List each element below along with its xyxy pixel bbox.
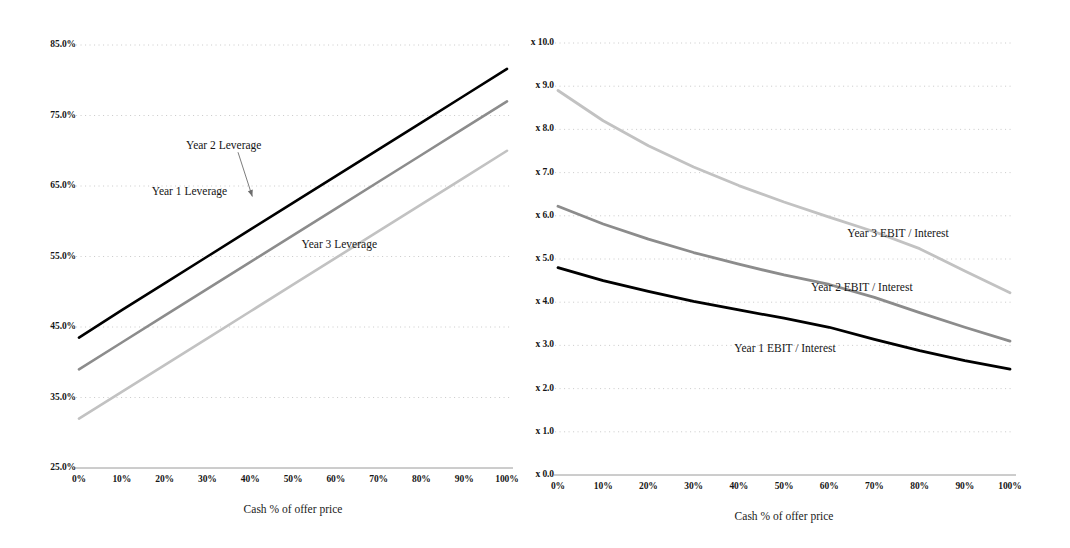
- figure-canvas: 85.0%75.0%65.0%55.0%45.0%35.0%25.0%0%10%…: [0, 0, 1070, 548]
- leverage-x-tick-label: 80%: [412, 474, 431, 484]
- leverage-y-tick-label: 75.0%: [0, 110, 76, 120]
- coverage-y-tick-label: x 10.0: [500, 37, 554, 47]
- leverage-series-annotation: Year 2 Leverage: [186, 139, 261, 151]
- coverage-x-tick-label: 0%: [551, 481, 565, 491]
- coverage-plot-area: [500, 0, 1070, 548]
- leverage-x-tick-label: 10%: [112, 474, 131, 484]
- coverage-series-annotation: Year 1 EBIT / Interest: [734, 342, 835, 354]
- coverage-y-tick-label: x 6.0: [500, 210, 554, 220]
- coverage-y-tick-label: x 9.0: [500, 80, 554, 90]
- leverage-plot-area: [0, 0, 535, 548]
- leverage-x-tick-label: 0%: [72, 474, 86, 484]
- leverage-x-tick-label: 60%: [326, 474, 345, 484]
- coverage-x-tick-label: 60%: [820, 481, 839, 491]
- coverage-x-tick-label: 100%: [998, 481, 1021, 491]
- leverage-y-tick-label: 35.0%: [0, 392, 76, 402]
- coverage-x-tick-label: 10%: [594, 481, 613, 491]
- coverage-x-tick-label: 30%: [684, 481, 703, 491]
- leverage-y-tick-label: 85.0%: [0, 39, 76, 49]
- leverage-y-tick-label: 45.0%: [0, 321, 76, 331]
- leverage-x-tick-label: 50%: [284, 474, 303, 484]
- leverage-x-tick-label: 70%: [369, 474, 388, 484]
- leverage-x-axis-title: Cash % of offer price: [244, 503, 343, 515]
- leverage-x-tick-label: 30%: [198, 474, 217, 484]
- coverage-x-tick-label: 80%: [910, 481, 929, 491]
- coverage-x-tick-label: 70%: [865, 481, 884, 491]
- coverage-chart-panel: x 10.0x 9.0x 8.0x 7.0x 6.0x 5.0x 4.0x 3.…: [500, 0, 1070, 548]
- leverage-series-annotation: Year 3 Leverage: [302, 238, 377, 250]
- coverage-y-tick-label: x 1.0: [500, 426, 554, 436]
- leverage-x-tick-label: 40%: [241, 474, 260, 484]
- coverage-x-tick-label: 90%: [955, 481, 974, 491]
- coverage-y-tick-label: x 0.0: [500, 469, 554, 479]
- coverage-x-tick-label: 40%: [729, 481, 748, 491]
- leverage-x-tick-label: 20%: [155, 474, 174, 484]
- leverage-series-annotation: Year 1 Leverage: [152, 185, 227, 197]
- leverage-x-tick-label: 90%: [455, 474, 474, 484]
- coverage-y-tick-label: x 4.0: [500, 296, 554, 306]
- coverage-series-annotation: Year 2 EBIT / Interest: [811, 281, 912, 293]
- leverage-y-tick-label: 65.0%: [0, 180, 76, 190]
- coverage-y-tick-label: x 3.0: [500, 339, 554, 349]
- leverage-y-tick-label: 25.0%: [0, 462, 76, 472]
- coverage-x-tick-label: 20%: [639, 481, 658, 491]
- coverage-series-annotation: Year 3 EBIT / Interest: [847, 227, 948, 239]
- coverage-x-tick-label: 50%: [775, 481, 794, 491]
- coverage-y-tick-label: x 2.0: [500, 383, 554, 393]
- coverage-y-tick-label: x 5.0: [500, 253, 554, 263]
- coverage-y-tick-label: x 8.0: [500, 123, 554, 133]
- leverage-chart-panel: 85.0%75.0%65.0%55.0%45.0%35.0%25.0%0%10%…: [0, 0, 535, 548]
- coverage-x-axis-title: Cash % of offer price: [735, 510, 834, 522]
- coverage-y-tick-label: x 7.0: [500, 167, 554, 177]
- leverage-y-tick-label: 55.0%: [0, 251, 76, 261]
